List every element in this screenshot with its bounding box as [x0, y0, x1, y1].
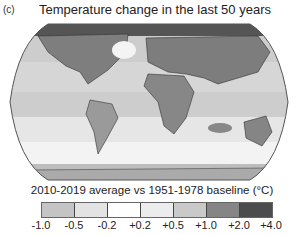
tick-label: +0.2 — [129, 219, 151, 231]
legend-bin — [207, 203, 240, 217]
tick-label: -0.5 — [65, 219, 84, 231]
tick-label: +4.0 — [260, 219, 282, 231]
chart-subtitle: 2010-2019 average vs 1951-1978 baseline … — [0, 184, 296, 196]
legend-bin — [108, 203, 141, 217]
legend-bin — [42, 203, 75, 217]
tick-label: +1.0 — [195, 219, 217, 231]
color-legend — [41, 202, 273, 218]
legend-bin — [174, 203, 207, 217]
tick-label: +0.5 — [162, 219, 184, 231]
legend-ticks: -1.0 -0.5 -0.2 +0.2 +0.5 +1.0 +2.0 +4.0 — [0, 219, 296, 233]
legend-bin — [141, 203, 174, 217]
legend-bin — [75, 203, 108, 217]
tick-label: +2.0 — [228, 219, 250, 231]
legend-bin — [240, 203, 272, 217]
chart-title: Temperature change in the last 50 years — [0, 2, 296, 17]
world-temperature-map — [8, 22, 290, 182]
tick-label: -0.2 — [98, 219, 117, 231]
tick-label: -1.0 — [32, 219, 51, 231]
